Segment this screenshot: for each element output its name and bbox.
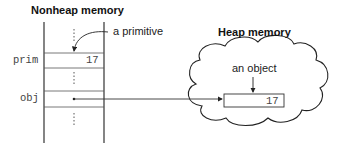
heap-cloud xyxy=(188,35,328,125)
primitive-annotation: a primitive xyxy=(113,25,163,37)
obj-variable-name: obj xyxy=(20,92,39,104)
nonheap-title: Nonheap memory xyxy=(31,4,124,16)
nonheap-stack xyxy=(44,22,104,143)
heap-object-value: 17 xyxy=(266,95,279,107)
object-annotation: an object xyxy=(232,62,277,74)
heap-title: Heap memory xyxy=(218,26,291,38)
memory-diagram xyxy=(0,0,344,153)
prim-variable-name: prim xyxy=(13,54,38,66)
prim-value: 17 xyxy=(86,54,99,66)
primitive-pointer-arrow xyxy=(74,32,108,51)
